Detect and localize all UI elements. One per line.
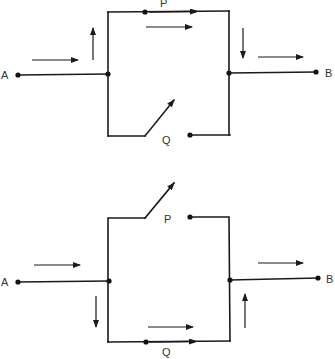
switch-p-label: P [160,0,167,9]
left-junction-dot [106,278,111,283]
terminal-a-label: A [1,276,9,288]
switch-q-open-lever [145,100,174,136]
wire-current-arrow [150,342,194,343]
terminal-b-label: B [325,67,332,79]
wire-a-to-junction [18,281,109,282]
switch-q-dot [143,339,148,344]
circuit-diagrams: A P B Q A [0,0,335,359]
switch-q-label: Q [162,134,171,146]
left-branch-wire [108,218,145,342]
switch-q-label: Q [162,346,171,358]
terminal-b-dot [315,275,320,280]
top-circuit: A P B Q [1,0,332,146]
terminal-b-dot [313,69,318,74]
bottom-circuit: A P B Q [1,183,333,358]
terminal-b-label: B [326,273,333,285]
wire-current-arrow [150,12,195,13]
switch-p-label: P [164,213,171,225]
terminal-a-label: A [1,69,9,81]
right-branch-wire [190,217,230,341]
wire-junction-to-b [229,72,316,73]
wire-a-to-junction [18,74,108,75]
wire-junction-to-b [230,278,318,280]
switch-p-dot [142,9,147,14]
